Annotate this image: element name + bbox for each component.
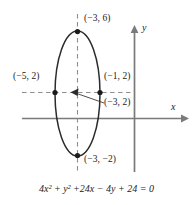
x-axis [22, 115, 189, 123]
label-top-vertex: (−3, 6) [84, 14, 111, 24]
y-axis [131, 25, 139, 172]
point-left-vertex [52, 90, 57, 95]
point-right-vertex [97, 90, 102, 95]
y-axis-arrowhead-icon [131, 25, 139, 33]
label-bottom-vertex: (−3, −2) [84, 155, 116, 165]
equation-caption: 4x² + y² +24x − 4y + 24 = 0 [0, 183, 193, 194]
label-center: (−3, 2) [104, 98, 131, 108]
label-right-vertex: (−1, 2) [104, 72, 131, 82]
ellipse-graph-figure: (−3, 6) (−5, 2) (−1, 2) (−3, 2) (−3, −2)… [0, 0, 193, 205]
graph-canvas [0, 0, 193, 205]
center-leader-arrowhead-icon [71, 89, 79, 96]
label-left-vertex: (−5, 2) [13, 72, 40, 82]
point-bottom-vertex [75, 153, 80, 158]
point-top-vertex [75, 29, 80, 34]
y-axis-label: y [142, 23, 146, 33]
x-axis-arrowhead-icon [181, 115, 189, 123]
x-axis-label: x [171, 102, 175, 112]
